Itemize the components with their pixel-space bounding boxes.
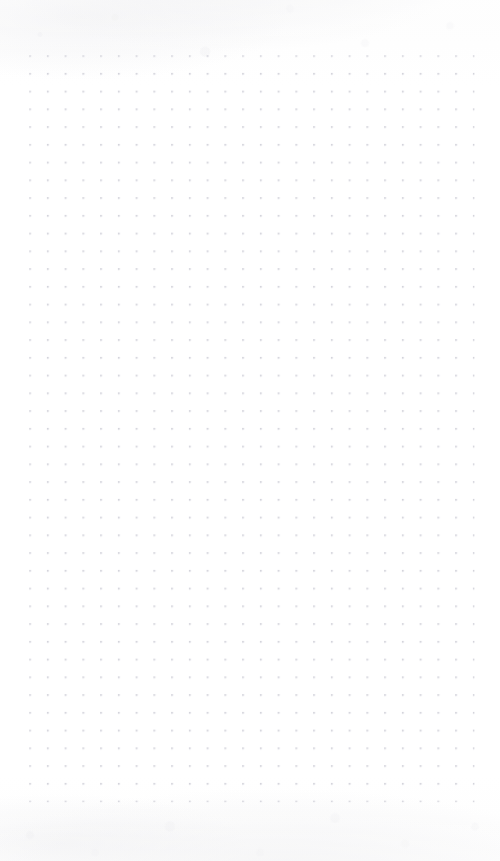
dot-grid-svg xyxy=(0,0,500,861)
dot-grid-page xyxy=(0,0,500,861)
dot-grid-canvas xyxy=(0,0,500,861)
paper-texture-overlay xyxy=(0,0,500,861)
grid-soften-overlay xyxy=(0,0,500,861)
